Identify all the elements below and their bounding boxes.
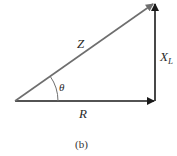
xl-label-sub: L	[167, 56, 173, 66]
impedance-triangle-diagram: Z θ R XL (b)	[0, 0, 177, 156]
z-label: Z	[77, 36, 85, 51]
r-label: R	[78, 106, 87, 121]
theta-label: θ	[59, 81, 65, 93]
impedance-vector-z	[15, 4, 153, 101]
figure-caption: (b)	[75, 138, 88, 151]
theta-angle-arc	[50, 76, 58, 101]
xl-label: XL	[159, 49, 173, 66]
